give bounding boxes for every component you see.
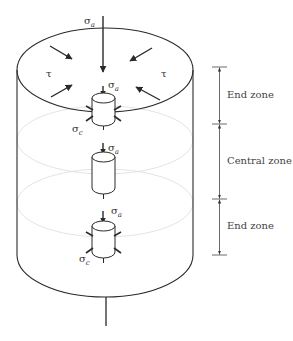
sigma-a-element-bottom-label: σa	[111, 205, 122, 219]
shear-arrows	[50, 46, 160, 100]
zone-label-top-end: End zone	[227, 89, 274, 100]
sigma-a-top-label: σa	[84, 15, 95, 29]
zone-label-bottom-end: End zone	[227, 220, 274, 231]
sigma-a-element-top-label: σa	[108, 79, 119, 93]
zone-label-central: Central zone	[227, 155, 292, 166]
specimen-stress-zones-diagram: σa τ τ σa σc σa σa σc	[0, 0, 293, 341]
sigma-c-element-top-label: σc	[72, 123, 83, 137]
zone-dimension-line	[212, 67, 227, 255]
tau-right-label: τ	[161, 68, 167, 79]
tau-left-label: τ	[46, 68, 52, 79]
sigma-c-element-bottom-label: σc	[79, 253, 90, 267]
